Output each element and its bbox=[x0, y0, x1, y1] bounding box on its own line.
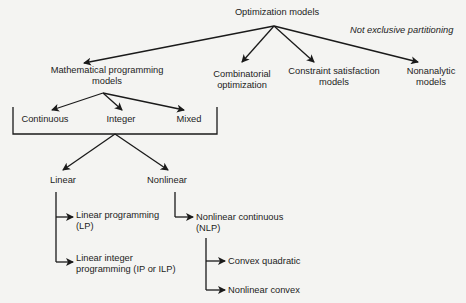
node-continuous: Continuous bbox=[21, 114, 68, 125]
linear-children-arrows bbox=[56, 192, 73, 262]
node-linear-integer-programming: Linear integer programming (IP or ILP) bbox=[76, 253, 176, 275]
node-linear-programming: Linear programming (LP) bbox=[76, 210, 159, 232]
node-label-line2: programming (IP or ILP) bbox=[76, 264, 176, 275]
node-optimization-models: Optimization models bbox=[235, 7, 319, 18]
node-label-line1: Nonanalytic bbox=[407, 66, 456, 77]
optimization-taxonomy-diagram: Optimization models Not exclusive partit… bbox=[0, 0, 466, 303]
node-nonlinear: Nonlinear bbox=[147, 175, 187, 186]
node-mathematical-programming: Mathematical programming models bbox=[51, 65, 164, 87]
node-integer: Integer bbox=[107, 114, 136, 125]
node-label-line2: (LP) bbox=[76, 221, 159, 232]
node-label-line1: Linear programming bbox=[76, 210, 159, 221]
node-convex-quadratic: Convex quadratic bbox=[228, 256, 300, 267]
node-combinatorial-optimization: Combinatorial optimization bbox=[213, 69, 270, 91]
node-label-line1: Combinatorial bbox=[213, 69, 270, 80]
node-label-line2: optimization bbox=[213, 80, 270, 91]
node-constraint-satisfaction: Constraint satisfaction models bbox=[288, 66, 379, 88]
node-label-line1: Nonlinear continuous bbox=[196, 212, 283, 223]
node-mixed: Mixed bbox=[177, 114, 202, 125]
node-label-line2: models bbox=[51, 76, 164, 87]
node-nonlinear-continuous: Nonlinear continuous (NLP) bbox=[196, 212, 283, 234]
node-nonanalytic: Nonanalytic models bbox=[407, 66, 456, 88]
node-label-line1: Constraint satisfaction bbox=[288, 66, 379, 77]
node-label-line2: models bbox=[407, 77, 456, 88]
nlp-children-arrows bbox=[206, 238, 225, 290]
linearity-arrows bbox=[63, 134, 168, 170]
node-nonlinear-convex: Nonlinear convex bbox=[228, 285, 300, 296]
node-label-line1: Linear integer bbox=[76, 253, 176, 264]
node-linear: Linear bbox=[50, 175, 76, 186]
node-label-line1: Mathematical programming bbox=[51, 65, 164, 76]
node-label-line2: (NLP) bbox=[196, 223, 283, 234]
math-arrows bbox=[52, 93, 184, 110]
nonlinear-children-arrows bbox=[175, 192, 193, 217]
annotation-not-exclusive: Not exclusive partitioning bbox=[350, 25, 453, 36]
node-label-line2: models bbox=[288, 77, 379, 88]
